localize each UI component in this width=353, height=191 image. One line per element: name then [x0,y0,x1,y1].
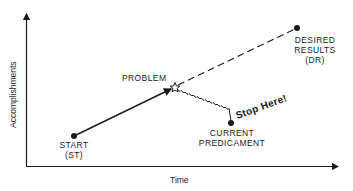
start-point [71,133,77,139]
start-label: START (ST) [58,140,90,160]
performance-gap-diagram: Accomplishments Time START (ST) PROBLEM … [0,0,353,191]
current-predicament-label: CURRENT PREDICAMENT [196,128,268,148]
desired-results-label: DESIRED RESULTS (DR) [290,35,340,65]
current-predicament-point [228,120,234,126]
start-to-problem-arrow [74,89,171,136]
desired-results-point [294,25,300,31]
x-axis-label: Time [170,175,189,185]
y-axis-label: Accomplishments [8,61,18,128]
problem-label: PROBLEM [122,73,166,83]
actual-path-wavy-line [177,89,231,121]
planned-path-dashed-line [178,28,297,85]
diagram-canvas [0,0,353,191]
